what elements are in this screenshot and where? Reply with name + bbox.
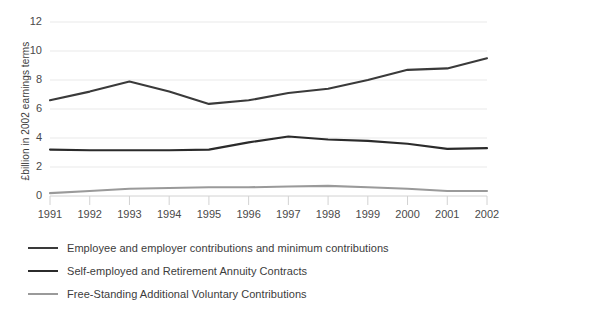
y-tick-label: 2: [16, 160, 42, 172]
y-tick-label: 6: [16, 102, 42, 114]
series-lines: [50, 58, 487, 193]
legend-swatch-icon: [28, 293, 58, 295]
chart-legend: Employee and employer contributions and …: [0, 236, 591, 305]
line-chart: £billion in 2002 earnings terms 02468101…: [0, 0, 591, 316]
plot-area: £billion in 2002 earnings terms 02468101…: [0, 0, 591, 232]
x-tick-label: 1997: [266, 208, 310, 220]
series-line: [50, 58, 487, 104]
x-tick-label: 1998: [306, 208, 350, 220]
x-tick-label: 1995: [187, 208, 231, 220]
y-tick-label: 0: [16, 189, 42, 201]
y-tick-label: 8: [16, 73, 42, 85]
x-tick-label: 2002: [465, 208, 509, 220]
series-line: [50, 137, 487, 151]
legend-swatch-icon: [28, 270, 58, 272]
legend-label: Employee and employer contributions and …: [67, 242, 389, 254]
legend-item[interactable]: Self-employed and Retirement Annuity Con…: [0, 259, 591, 282]
legend-item[interactable]: Employee and employer contributions and …: [0, 236, 591, 259]
y-tick-label: 12: [16, 15, 42, 27]
x-tick-label: 2001: [425, 208, 469, 220]
y-tick-label: 4: [16, 131, 42, 143]
series-line: [50, 186, 487, 193]
x-tick-label: 1999: [346, 208, 390, 220]
legend-label: Free-Standing Additional Voluntary Contr…: [67, 288, 307, 300]
legend-item[interactable]: Free-Standing Additional Voluntary Contr…: [0, 282, 591, 305]
y-tick-label: 10: [16, 44, 42, 56]
legend-label: Self-employed and Retirement Annuity Con…: [67, 265, 307, 277]
plot-svg: [0, 0, 591, 232]
x-tick-label: 1994: [147, 208, 191, 220]
x-axis-ticks: [50, 196, 487, 205]
x-tick-label: 1996: [227, 208, 271, 220]
x-tick-label: 1991: [28, 208, 72, 220]
legend-swatch-icon: [28, 247, 58, 249]
x-tick-label: 2000: [386, 208, 430, 220]
x-tick-label: 1993: [107, 208, 151, 220]
x-tick-label: 1992: [68, 208, 112, 220]
